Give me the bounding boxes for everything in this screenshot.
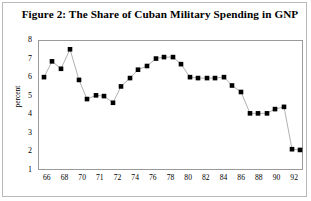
data-point-marker	[59, 66, 64, 71]
data-point-marker	[248, 111, 253, 116]
data-point-marker	[179, 62, 184, 67]
data-point-marker	[290, 147, 295, 152]
data-point-marker	[94, 93, 99, 98]
data-point-marker	[213, 76, 218, 81]
data-point-marker	[42, 75, 47, 80]
data-point-marker	[239, 90, 244, 95]
data-point-marker	[68, 47, 73, 52]
data-point-marker	[205, 76, 210, 81]
data-point-marker	[50, 59, 55, 64]
data-point-marker	[154, 56, 159, 61]
data-point-marker	[102, 94, 107, 99]
data-point-marker	[85, 97, 90, 102]
chart-canvas: percent 12345678 66687071727476788082848…	[0, 0, 311, 201]
data-point-marker	[111, 100, 116, 105]
data-point-marker	[162, 55, 167, 60]
data-point-marker	[222, 75, 227, 80]
data-point-marker	[128, 76, 133, 81]
data-point-marker	[145, 64, 150, 69]
data-point-marker	[298, 148, 303, 153]
data-point-marker	[196, 76, 201, 81]
data-point-marker	[282, 105, 287, 110]
series-line	[44, 49, 300, 150]
data-point-marker	[171, 55, 176, 60]
data-point-marker	[77, 78, 82, 83]
data-point-marker	[119, 84, 124, 89]
data-series-layer	[0, 0, 311, 201]
data-point-marker	[230, 83, 235, 88]
data-point-marker	[256, 111, 261, 116]
data-point-marker	[188, 75, 193, 80]
data-point-marker	[265, 111, 270, 116]
data-point-marker	[273, 107, 278, 112]
data-point-marker	[136, 67, 141, 72]
